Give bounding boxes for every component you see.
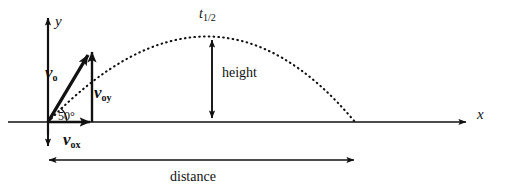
distance-label: distance [170,170,216,184]
half-time-subscript: 1/2 [203,12,216,23]
initial-velocity-symbol: v [45,63,53,82]
velocity-x-label: vox [63,131,81,148]
velocity-y-symbol: v [94,83,102,102]
initial-velocity-label: vo [45,64,58,81]
projectile-motion-diagram: y x vo voy vox 50° t1/2 height distance [0,0,506,194]
diagram-canvas [0,0,506,194]
velocity-y-label: voy [94,84,112,101]
y-axis-label: y [55,14,62,29]
velocity-x-subscript: ox [71,139,81,150]
half-time-label: t1/2 [199,7,216,21]
trajectory-path [48,37,355,123]
height-label: height [222,66,257,80]
initial-velocity-subscript: o [53,72,58,83]
x-axis-label: x [477,107,484,122]
velocity-x-symbol: v [63,130,71,149]
velocity-y-subscript: oy [102,92,112,103]
launch-angle-label: 50° [58,110,75,122]
